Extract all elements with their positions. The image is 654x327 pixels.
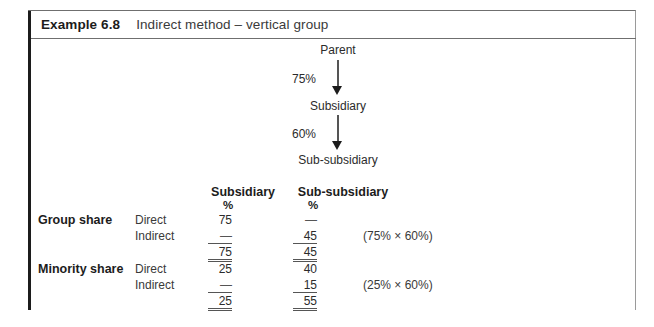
cell-subsidiary-group-indirect: — [208,229,232,244]
cell-sub-subsidiary-group-direct: — [293,213,317,227]
edge-label-parent-subsidiary: 75% [292,72,316,86]
example-number: Example 6.8 [41,17,120,32]
diagram-node-sub-subsidiary: Sub-subsidiary [298,153,377,167]
cell-subsidiary-minority-direct: 25 [208,262,232,276]
row-type-label-direct-group: Direct [135,213,166,227]
formula-minority-indirect: (25% × 60%) [363,278,433,292]
cell-subsidiary-minority-total: 25 [208,294,232,311]
cell-sub-subsidiary-group-indirect: 45 [293,229,317,244]
cell-subsidiary-minority-indirect: — [208,278,232,293]
row-type-label-indirect-minority: Indirect [135,278,174,292]
cell-sub-subsidiary-minority-indirect: 15 [293,278,317,293]
arrow-head-parent-subsidiary [332,86,342,95]
arrow-line-subsidiary-subsubsidiary [337,115,339,144]
row-type-label-direct-minority: Direct [135,262,166,276]
row-group-label-minority-share: Minority share [38,262,123,276]
edge-label-subsidiary-subsubsidiary: 60% [292,127,316,141]
cell-sub-subsidiary-minority-total: 55 [293,294,317,311]
cell-sub-subsidiary-minority-direct: 40 [293,262,317,276]
cell-sub-subsidiary-group-total: 45 [293,245,317,262]
cell-subsidiary-group-direct: 75 [208,213,232,227]
column-header-subsidiary: Subsidiary [211,185,275,199]
diagram-node-subsidiary: Subsidiary [310,99,366,113]
row-group-label-group-share: Group share [38,213,112,227]
formula-group-indirect: (75% × 60%) [363,229,433,243]
column-unit-subsidiary: % [223,199,233,211]
diagram-node-parent: Parent [320,43,355,57]
column-unit-sub-subsidiary: % [308,199,318,211]
arrow-head-subsidiary-subsubsidiary [332,141,342,150]
example-title: Indirect method – vertical group [136,17,328,32]
example-title-bar: Example 6.8 Indirect method – vertical g… [31,11,636,39]
row-type-label-indirect-group: Indirect [135,229,174,243]
cell-subsidiary-group-total: 75 [208,245,232,262]
column-header-sub-subsidiary: Sub-subsidiary [298,185,388,199]
